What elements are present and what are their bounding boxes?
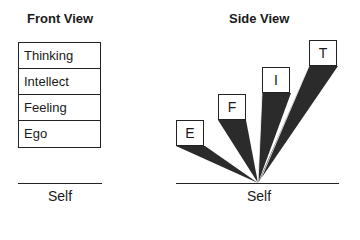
side-view-self-label: Self xyxy=(247,188,271,204)
box-e: E xyxy=(176,120,204,146)
box-t: T xyxy=(309,40,337,66)
box-i: I xyxy=(262,67,290,93)
box-f: F xyxy=(218,94,246,120)
side-view-baseline xyxy=(176,183,339,184)
